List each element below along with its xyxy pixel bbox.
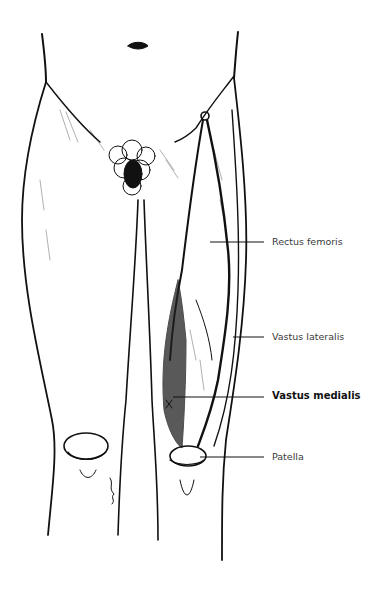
- label-vastus-lateralis: Vastus lateralis: [272, 331, 344, 343]
- left-knee-scribble: [110, 478, 114, 504]
- right-leg-inner: [144, 200, 158, 540]
- asis-marker: [201, 112, 209, 120]
- torso-right-outline: [234, 32, 238, 78]
- thigh-anatomy-illustration: [0, 0, 375, 592]
- vastus-lateralis-edge: [214, 110, 239, 446]
- label-vastus-medialis: Vastus medialis: [272, 390, 361, 402]
- navel: [128, 42, 148, 49]
- right-inguinal-line: [175, 76, 234, 142]
- torso-left-outline: [42, 34, 46, 82]
- left-leg-inner: [118, 200, 138, 535]
- left-leg-outer: [22, 82, 55, 535]
- label-rectus-femoris: Rectus femoris: [272, 236, 343, 248]
- label-patella: Patella: [272, 451, 304, 463]
- pubic-region: [109, 140, 155, 195]
- vastus-medialis-shape: [163, 280, 186, 448]
